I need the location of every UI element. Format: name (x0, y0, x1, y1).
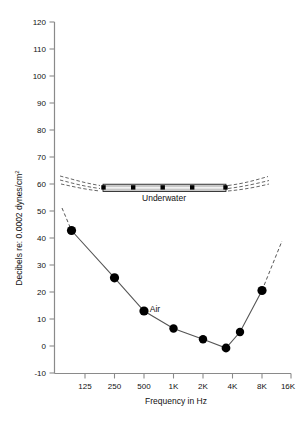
x-tick-label: 4K (228, 382, 238, 391)
air-data-point (257, 286, 266, 295)
underwater-data-point (131, 185, 135, 189)
y-tick-label: 70 (37, 153, 46, 162)
underwater-data-point (223, 185, 227, 189)
y-axis-title: Decibels re: 0.0002 dynes/cm2 (14, 170, 24, 286)
series-label-air: Air (150, 304, 161, 314)
y-tick-label: 110 (33, 45, 46, 54)
y-tick-label: 40 (37, 234, 46, 243)
y-axis-title-group: Decibels re: 0.0002 dynes/cm2 (14, 170, 24, 286)
y-tick-label: 60 (37, 180, 46, 189)
underwater-data-point (101, 185, 105, 189)
air-data-point (222, 344, 231, 353)
chart-svg: 120 110 100 90 80 70 60 50 40 30 20 10 0… (0, 0, 299, 423)
chart-figure: 120 110 100 90 80 70 60 50 40 30 20 10 0… (0, 0, 299, 423)
y-tick-label: 80 (37, 126, 46, 135)
air-data-point (169, 324, 177, 332)
x-tick-label: 500 (137, 382, 151, 391)
x-axis-title: Frequency in Hz (145, 396, 207, 406)
y-tick-label: 100 (33, 72, 47, 81)
y-tick-label: 120 (33, 18, 47, 27)
x-tick-label: 8K (257, 382, 267, 391)
air-data-point (139, 306, 148, 315)
y-tick-label: 50 (37, 207, 46, 216)
y-axis-title-text: Decibels re: 0.0002 dynes/cm (14, 174, 24, 286)
air-data-point (67, 226, 76, 235)
x-tick-label: 125 (78, 382, 92, 391)
underwater-data-point (161, 185, 165, 189)
x-tick-label: 2K (198, 382, 208, 391)
y-tick-label: 0 (42, 342, 47, 351)
x-tick-label: 16K (281, 382, 296, 391)
y-tick-label: 10 (37, 315, 46, 324)
x-tick-label: 1K (169, 382, 179, 391)
series-label-underwater: Underwater (142, 193, 186, 203)
x-tick-label: 250 (108, 382, 122, 391)
air-data-point (199, 335, 207, 343)
y-tick-label: 30 (37, 261, 46, 270)
underwater-data-point (190, 185, 194, 189)
air-data-point (110, 273, 119, 282)
y-tick-label: -10 (34, 369, 46, 378)
y-tick-label: 90 (37, 99, 46, 108)
air-data-point (236, 328, 244, 336)
y-tick-label: 20 (37, 288, 46, 297)
